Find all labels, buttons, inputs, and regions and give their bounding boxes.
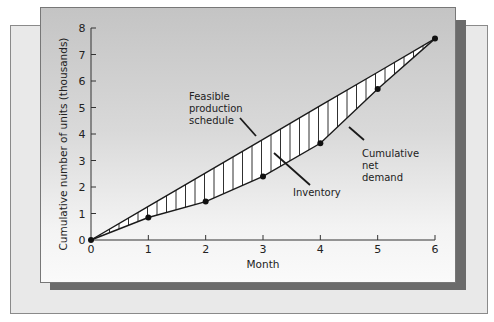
annotation-demand: Cumulative net demand <box>349 127 419 183</box>
arrow-demand <box>349 127 364 140</box>
x-axis-title: Month <box>247 258 280 270</box>
data-point <box>260 173 266 179</box>
y-tick-label: 4 <box>79 128 86 141</box>
svg-text:Inventory: Inventory <box>293 187 341 198</box>
x-tick-label: 6 <box>432 243 439 256</box>
x-tick-label: 1 <box>145 243 152 256</box>
svg-text:net: net <box>362 160 378 171</box>
y-tick-label: 0 <box>79 234 86 247</box>
chart: 012345678 0123456 Month Cumulative numbe… <box>0 0 494 322</box>
y-tick-label: 1 <box>79 208 86 221</box>
x-tick-label: 0 <box>88 243 95 256</box>
data-point <box>88 237 94 243</box>
svg-text:production: production <box>189 103 243 114</box>
y-axis-title: Cumulative number of units (thousands) <box>57 38 69 251</box>
data-point <box>203 199 209 205</box>
x-tick-label: 4 <box>317 243 324 256</box>
x-tick-label: 2 <box>202 243 209 256</box>
svg-text:Cumulative: Cumulative <box>362 148 419 159</box>
y-axis: 012345678 <box>79 22 97 247</box>
data-point <box>432 36 438 42</box>
data-point <box>145 214 151 220</box>
y-tick-label: 5 <box>79 102 86 115</box>
y-tick-label: 3 <box>79 155 86 168</box>
data-point <box>317 140 323 146</box>
y-tick-label: 2 <box>79 181 86 194</box>
x-tick-label: 5 <box>374 243 381 256</box>
svg-text:Feasible: Feasible <box>189 91 230 102</box>
svg-text:demand: demand <box>362 172 403 183</box>
arrow-feasible <box>240 118 256 136</box>
annotation-feasible: Feasible production schedule <box>189 91 256 136</box>
x-axis: 0123456 <box>88 235 439 256</box>
y-tick-label: 6 <box>79 75 86 88</box>
inventory-region <box>91 28 435 240</box>
y-tick-label: 7 <box>79 49 86 62</box>
svg-text:schedule: schedule <box>189 115 234 126</box>
feasible-production-line <box>91 39 435 240</box>
x-tick-label: 3 <box>260 243 267 256</box>
y-tick-label: 8 <box>79 22 86 35</box>
data-point <box>375 86 381 92</box>
figure: 012345678 0123456 Month Cumulative numbe… <box>0 0 494 322</box>
